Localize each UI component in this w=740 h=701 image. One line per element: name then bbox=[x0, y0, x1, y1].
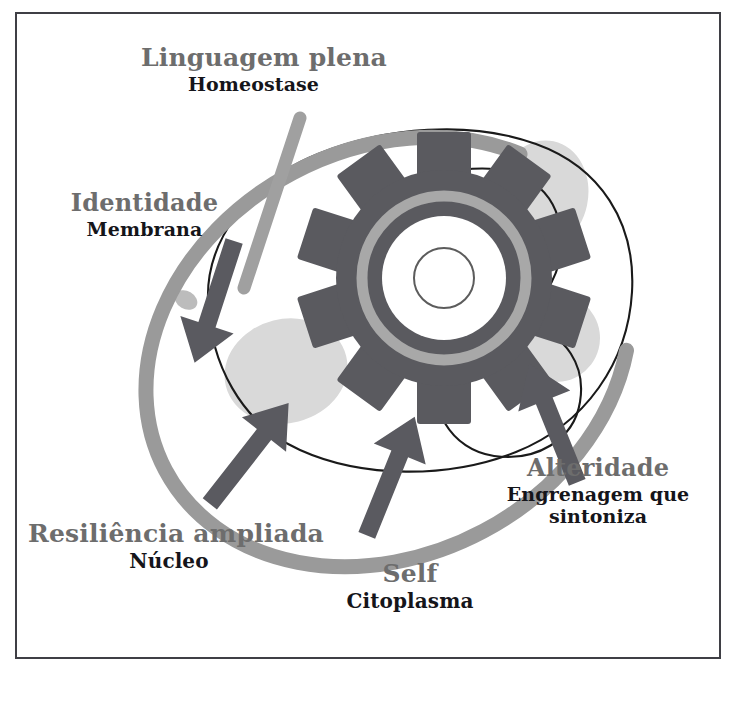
label-alteridade-sub-line2: sintoniza bbox=[493, 506, 703, 528]
label-identidade-sub: Membrana bbox=[52, 219, 237, 241]
label-self: Self Citoplasma bbox=[320, 560, 500, 613]
label-identidade-main: Identidade bbox=[52, 190, 237, 217]
diagram-root: Linguagem plena Homeostase Identidade Me… bbox=[0, 0, 740, 701]
label-alteridade-sub: Engrenagem que sintoniza bbox=[493, 484, 703, 528]
label-alteridade-sub-line1: Engrenagem que bbox=[493, 484, 703, 506]
label-resiliencia-sub: Núcleo bbox=[28, 550, 310, 573]
label-linguagem-sub: Homeostase bbox=[141, 74, 366, 96]
label-linguagem-plena: Linguagem plena Homeostase bbox=[141, 44, 366, 96]
label-self-main: Self bbox=[320, 560, 500, 588]
label-resiliencia-main: Resiliência ampliada bbox=[28, 520, 310, 548]
label-alteridade: Alteridade Engrenagem que sintoniza bbox=[493, 455, 703, 528]
label-self-sub: Citoplasma bbox=[320, 590, 500, 613]
label-resiliencia-ampliada: Resiliência ampliada Núcleo bbox=[28, 520, 310, 573]
label-alteridade-main: Alteridade bbox=[493, 455, 703, 482]
label-identidade: Identidade Membrana bbox=[52, 190, 237, 241]
label-linguagem-main: Linguagem plena bbox=[141, 44, 366, 72]
